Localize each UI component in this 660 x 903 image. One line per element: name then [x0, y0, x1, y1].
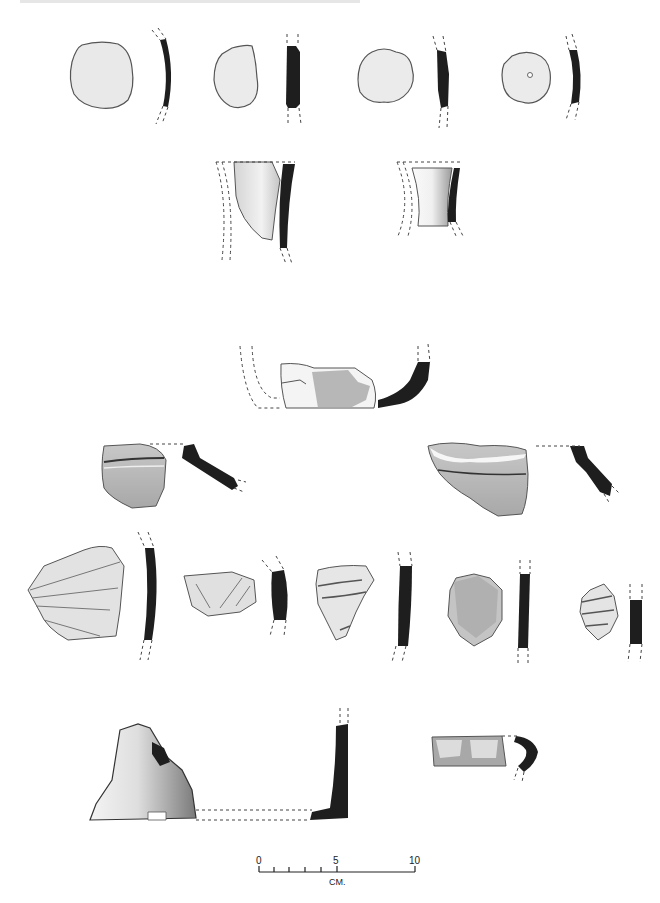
scale-label-5: 5 — [333, 855, 339, 866]
base-sherd-2 — [90, 708, 348, 820]
body-sherd-1 — [70, 42, 132, 108]
scale-unit: CM. — [329, 877, 346, 887]
body-sherd-4-perforated — [502, 52, 550, 103]
profile-4 — [566, 34, 581, 120]
incised-sherd-4 — [580, 584, 642, 662]
incised-sherd-2 — [184, 556, 288, 636]
profile-2 — [286, 34, 301, 124]
perforation-hole — [528, 73, 533, 78]
handle-rim-sherd — [432, 736, 538, 782]
incised-sherd-3 — [316, 552, 412, 662]
neck-sherd-2 — [397, 162, 463, 236]
base-sherd-1 — [240, 344, 430, 408]
body-sherd-5 — [448, 560, 530, 666]
scale-bar — [259, 866, 415, 872]
neck-sherd-1 — [216, 162, 295, 264]
rim-sherd-2 — [428, 443, 620, 516]
sherd-plate — [0, 0, 660, 903]
rim-sherd-1 — [102, 444, 246, 508]
scale-label-0: 0 — [256, 855, 262, 866]
body-sherd-3 — [358, 49, 413, 102]
profile-1 — [152, 28, 171, 124]
incised-sherd-1 — [28, 532, 157, 660]
scale-label-10: 10 — [409, 855, 420, 866]
profile-3 — [433, 36, 449, 128]
body-sherd-2 — [214, 45, 258, 107]
